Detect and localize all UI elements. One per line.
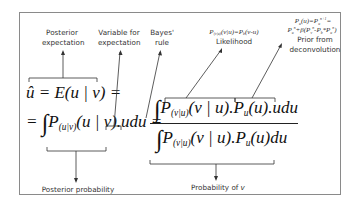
bracket-posterior-expectation — [29, 78, 97, 82]
annotation-lines — [0, 0, 360, 210]
